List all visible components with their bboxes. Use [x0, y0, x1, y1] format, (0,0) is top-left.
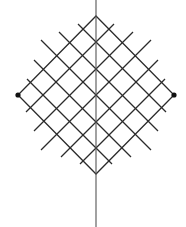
backslash-grid-line: [78, 24, 166, 112]
backslash-grid-line: [59, 32, 158, 131]
slash-grid-line: [26, 24, 114, 112]
diamond-lattice-diagram: [0, 0, 186, 227]
right-vertex-dot: [171, 92, 176, 97]
slash-grid-line: [34, 32, 133, 131]
left-vertex-dot: [15, 92, 20, 97]
